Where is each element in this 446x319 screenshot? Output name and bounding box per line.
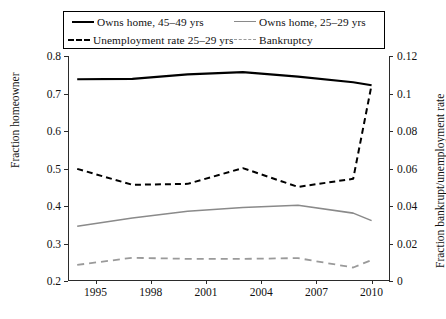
y-axis-left-tick-label: 0.3 [47, 238, 61, 250]
legend-label-unemployment-25-29: Unemployment rate 25–29 yrs [93, 34, 233, 46]
y-axis-right-title: Fraction bankrupt/unemployment rate [434, 94, 446, 268]
legend-item-owns-home-45-49: Owns home, 45–49 yrs [72, 12, 204, 31]
y-axis-left-tick-label: 0.8 [47, 50, 61, 62]
y-axis-left-tick-label: 0.5 [47, 163, 61, 175]
y-axis-left-title: Fraction homeowner [9, 73, 21, 169]
y-axis-right-tick-label: 0.08 [397, 125, 417, 137]
legend-item-bankruptcy: Bankruptcy [234, 30, 313, 49]
y-axis-left-tick-label: 0.4 [47, 200, 61, 212]
x-axis-tick-label: 1998 [139, 286, 162, 298]
y-axis-right-tick-label: 0.06 [397, 163, 417, 175]
chart-figure: Owns home, 45–49 yrs Owns home, 25–29 yr… [0, 0, 446, 319]
y-axis-right-tick-label: 0.1 [397, 88, 411, 100]
x-axis-tick-label: 1995 [84, 286, 107, 298]
series-line [77, 72, 371, 85]
series-line [77, 258, 371, 268]
x-axis-tick-label: 2010 [360, 286, 383, 298]
x-axis-tick-label: 2007 [305, 286, 328, 298]
y-axis-left-tick [64, 281, 68, 282]
y-axis-right-tick-label: 0 [397, 275, 403, 287]
legend-label-bankruptcy: Bankruptcy [259, 34, 313, 46]
y-axis-left-tick-label: 0.6 [47, 125, 61, 137]
series-lines [68, 56, 390, 281]
legend-row-2: Unemployment rate 25–29 yrs Bankruptcy [64, 30, 384, 49]
legend-label-owns-home-45-49: Owns home, 45–49 yrs [97, 16, 204, 28]
x-axis-tick-label: 2001 [195, 286, 218, 298]
legend-row-1: Owns home, 45–49 yrs Owns home, 25–29 yr… [64, 12, 384, 31]
y-axis-right-tick-label: 0.12 [397, 50, 417, 62]
legend-item-owns-home-25-29: Owns home, 25–29 yrs [234, 12, 366, 31]
legend-line-sample-dashed-black-icon [68, 34, 90, 45]
y-axis-left-tick-label: 0.7 [47, 88, 61, 100]
series-line [77, 85, 371, 187]
legend-line-sample-solid-gray-icon [234, 16, 256, 27]
chart-legend: Owns home, 45–49 yrs Owns home, 25–29 yr… [63, 11, 385, 49]
x-axis-tick-label: 2004 [250, 286, 273, 298]
series-line [77, 205, 371, 226]
legend-line-sample-solid-black-icon [72, 16, 94, 27]
y-axis-right-tick [389, 281, 393, 282]
legend-item-unemployment-25-29: Unemployment rate 25–29 yrs [68, 30, 233, 49]
legend-line-sample-dashed-gray-icon [234, 34, 256, 45]
y-axis-right-tick-label: 0.02 [397, 238, 417, 250]
legend-label-owns-home-25-29: Owns home, 25–29 yrs [259, 16, 366, 28]
y-axis-left-tick-label: 0.2 [47, 275, 61, 287]
plot-area: 0.20.30.40.50.60.70.8 00.020.040.060.080… [68, 56, 390, 281]
y-axis-right-tick-label: 0.04 [397, 200, 417, 212]
